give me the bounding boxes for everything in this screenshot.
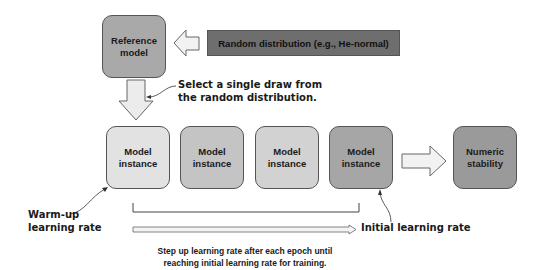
model-instance-label-line1: Model bbox=[193, 146, 232, 158]
step-caption-line2: reaching initial learning rate for train… bbox=[130, 257, 360, 269]
warmup-note-line2: learning rate bbox=[28, 221, 101, 234]
step-caption-line1: Step up learning rate after each epoch u… bbox=[130, 245, 360, 257]
reference-model-box: Referencemodel bbox=[102, 15, 166, 78]
left-arrow-icon bbox=[174, 30, 199, 56]
select-note-line1: Select a single draw from bbox=[178, 78, 322, 91]
model-instance-label-line1: Model bbox=[119, 146, 158, 158]
down-arrow-icon bbox=[119, 80, 153, 120]
right-arrow-icon bbox=[402, 146, 446, 176]
initial-note-label: Initial learning rate bbox=[361, 221, 471, 234]
initial-pointer bbox=[380, 192, 391, 222]
model-instance-label-line2: instance bbox=[119, 158, 158, 170]
warmup-note-line1: Warm-up bbox=[28, 208, 101, 221]
select-draw-note: Select a single draw from the random dis… bbox=[178, 78, 322, 104]
initial-learning-rate-note: Initial learning rate bbox=[361, 221, 471, 234]
step-up-caption: Step up learning rate after each epoch u… bbox=[130, 245, 360, 269]
random-distribution-label: Random distribution (e.g., He-normal) bbox=[218, 38, 388, 49]
model-instance-3: Modelinstance bbox=[255, 126, 319, 189]
model-instance-4: Modelinstance bbox=[329, 126, 393, 189]
select-note-pointer bbox=[149, 86, 176, 97]
numeric-stability-box: Numericstability bbox=[453, 126, 517, 189]
model-instance-label-line2: instance bbox=[268, 158, 307, 170]
select-note-line2: the random distribution. bbox=[178, 91, 322, 104]
model-instance-label-line2: instance bbox=[342, 158, 381, 170]
reference-model-label-line2: model bbox=[111, 47, 157, 59]
bracket bbox=[133, 203, 359, 212]
numeric-stability-label-line2: stability bbox=[466, 158, 504, 170]
numeric-stability-label-line1: Numeric bbox=[466, 146, 504, 158]
model-instance-2: Modelinstance bbox=[180, 126, 244, 189]
step-arrow-icon bbox=[133, 225, 356, 234]
model-instance-label-line1: Model bbox=[268, 146, 307, 158]
warmup-learning-rate-note: Warm-up learning rate bbox=[28, 208, 101, 234]
model-instance-label-line1: Model bbox=[342, 146, 381, 158]
model-instance-label-line2: instance bbox=[193, 158, 232, 170]
random-distribution-bar: Random distribution (e.g., He-normal) bbox=[207, 30, 400, 56]
reference-model-label-line1: Reference bbox=[111, 35, 157, 47]
model-instance-1: Modelinstance bbox=[106, 126, 170, 189]
